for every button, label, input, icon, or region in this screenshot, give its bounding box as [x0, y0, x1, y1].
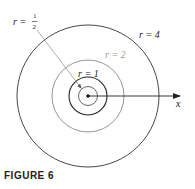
x-axis-label: x	[175, 98, 181, 109]
label-r-1: r = 1	[78, 68, 99, 79]
label-r-half-denominator: 2	[33, 23, 37, 31]
label-r-half: r = 1 2	[13, 12, 38, 31]
polar-circles-diagram: r = 4 r = 2 r = 1 r = 1 2 x	[0, 0, 195, 189]
label-r-half-prefix: r =	[13, 16, 26, 27]
figure-caption: FIGURE 6	[4, 170, 54, 181]
origin-dot	[86, 94, 90, 98]
label-r-half-numerator: 1	[33, 12, 37, 20]
half-label-leader-line	[37, 30, 81, 88]
label-r-2: r = 2	[105, 49, 126, 60]
label-r-4: r = 4	[139, 29, 160, 40]
